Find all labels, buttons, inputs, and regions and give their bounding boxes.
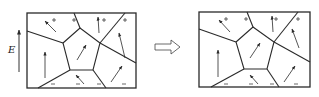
grain-boundaries xyxy=(27,13,136,88)
surface-charges-positive xyxy=(224,17,300,21)
grain-boundaries xyxy=(199,12,310,87)
domain-switching-diagram xyxy=(0,0,319,97)
panel-before xyxy=(27,13,136,88)
surface-charges-positive xyxy=(52,18,127,22)
open-right-arrow-icon xyxy=(155,40,180,54)
panel-frame xyxy=(199,12,310,87)
panel-frame xyxy=(27,13,136,88)
panel-after xyxy=(199,12,310,87)
electric-field-label: E xyxy=(8,44,15,55)
